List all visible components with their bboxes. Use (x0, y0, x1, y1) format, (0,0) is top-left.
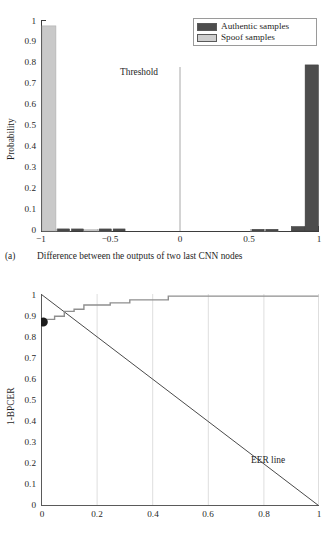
fig-a-plot-area (41, 20, 319, 232)
fig-a-ytick-10: 0 (6, 226, 36, 235)
fig-b-ytick-1: 0.9 (6, 312, 36, 321)
fig-b-eer-label: EER line (251, 456, 285, 465)
fig-b-xtick-3: 0.6 (194, 510, 222, 519)
fig-b-xtick-2: 0.4 (139, 510, 167, 519)
fig-a-xtick-2: 0 (166, 235, 194, 244)
figure-b-roc: 1 0.9 0.8 0.7 0.6 0.5 0.4 0.3 0.2 0.1 0 … (0, 270, 323, 533)
fig-a-ytick-2: 0.8 (6, 58, 36, 67)
bar-authentic (113, 229, 125, 231)
legend-swatch-authentic-icon (197, 23, 217, 31)
bar-authentic (99, 229, 111, 231)
fig-a-ytick-0: 1 (6, 17, 36, 26)
fig-a-panel-letter: (a) (5, 252, 15, 261)
bar-spoof (42, 26, 56, 231)
legend-swatch-spoof-icon (197, 34, 217, 42)
bar-authentic (252, 229, 264, 231)
bar-authentic (291, 226, 305, 231)
fig-a-y-axis-title: Probability (7, 118, 16, 160)
fig-b-xtick-4: 0.8 (250, 510, 278, 519)
fig-a-ytick-1: 0.9 (6, 37, 36, 46)
fig-b-y-axis-title: 1-BPCER (7, 387, 16, 425)
fig-a-xtick-4: 1 (305, 235, 323, 244)
legend-label-spoof: Spoof samples (221, 33, 275, 42)
fig-b-ytick-2: 0.8 (6, 333, 36, 342)
fig-b-plot-area (41, 294, 319, 507)
fig-b-xtick-0: 0 (28, 510, 56, 519)
fig-b-ytick-7: 0.3 (6, 438, 36, 447)
fig-a-xtick-3: 0.5 (235, 235, 263, 244)
legend-label-authentic: Authentic samples (221, 22, 289, 31)
fig-b-xtick-1: 0.2 (83, 510, 111, 519)
fig-a-x-axis-title: Difference between the outputs of two la… (37, 252, 243, 261)
fig-b-ytick-0: 1 (6, 291, 36, 300)
fig-a-legend: Authentic samples Spoof samples (193, 18, 317, 46)
bar-authentic (305, 65, 318, 231)
fig-a-ytick-4: 0.6 (6, 100, 36, 109)
bar-spoof (84, 230, 98, 231)
bar-authentic (71, 229, 83, 231)
fig-b-ytick-10: 0 (6, 501, 36, 510)
fig-b-ytick-3: 0.7 (6, 354, 36, 363)
legend-item-authentic: Authentic samples (197, 21, 312, 32)
fig-b-xtick-5: 1 (305, 510, 323, 519)
bar-authentic (58, 229, 70, 231)
legend-item-spoof: Spoof samples (197, 32, 312, 43)
fig-a-xtick-1: −0.5 (96, 235, 124, 244)
fig-a-ytick-7: 0.3 (6, 163, 36, 172)
figure-a-histogram: 1 0.9 0.8 0.7 0.6 0.5 0.4 0.3 0.2 0.1 0 … (0, 0, 323, 270)
fig-a-ytick-3: 0.7 (6, 79, 36, 88)
fig-b-ytick-9: 0.1 (6, 480, 36, 489)
fig-a-ytick-8: 0.2 (6, 184, 36, 193)
fig-b-ytick-4: 0.6 (6, 375, 36, 384)
bar-authentic (266, 229, 278, 231)
fig-a-xtick-0: −1 (27, 235, 55, 244)
fig-b-ytick-8: 0.2 (6, 459, 36, 468)
fig-b-eer-line (42, 295, 319, 506)
fig-a-ytick-9: 0.1 (6, 205, 36, 214)
fig-a-threshold-label: Threshold (120, 68, 158, 77)
fig-b-gridlines (97, 294, 318, 506)
fig-b-roc-curve (42, 296, 319, 322)
